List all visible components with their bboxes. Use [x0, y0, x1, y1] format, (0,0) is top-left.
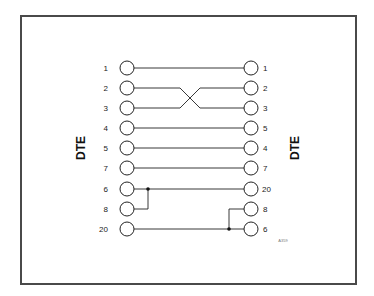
pin-circle-icon [244, 121, 258, 135]
pin-circle-icon [244, 101, 258, 115]
pin-circle-icon [120, 121, 134, 135]
left-pin-label: 2 [104, 84, 109, 93]
null-modem-wiring-diagram: DTE DTE 1 2 3 4 5 7 6 8 20 1 2 3 5 4 7 2… [0, 0, 374, 296]
left-pin-label: 1 [104, 64, 109, 73]
pin-circle-icon [244, 61, 258, 75]
junction-dot-icon [146, 187, 150, 191]
right-pin-label: 5 [263, 124, 268, 133]
right-pin-label: 3 [263, 104, 268, 113]
pin-circle-icon [120, 182, 134, 196]
left-pin-label: 3 [104, 104, 109, 113]
pin-circle-icon [120, 161, 134, 175]
pin-circle-icon [244, 81, 258, 95]
left-connector-pins [120, 61, 134, 236]
right-pin-label: 8 [263, 205, 268, 214]
right-side-label: DTE [288, 136, 302, 160]
pin-circle-icon [244, 222, 258, 236]
left-side-label: DTE [74, 136, 88, 160]
right-pin-label: 4 [263, 144, 268, 153]
pin-circle-icon [120, 141, 134, 155]
pin-circle-icon [244, 161, 258, 175]
left-pin-label: 5 [104, 144, 109, 153]
right-pin-labels: 1 2 3 5 4 7 20 8 6 [262, 64, 271, 234]
left-pin-label: 4 [104, 124, 109, 133]
right-pin-label: 2 [263, 84, 268, 93]
pin-circle-icon [120, 81, 134, 95]
right-pin-label: 20 [262, 185, 271, 194]
figure-reference-code: A359 [278, 238, 288, 243]
right-connector-pins [244, 61, 258, 236]
wire-2-3 [134, 88, 244, 108]
pin-circle-icon [120, 101, 134, 115]
left-pin-label: 8 [104, 205, 109, 214]
wire-3-2 [134, 88, 244, 108]
pin-circle-icon [120, 61, 134, 75]
pin-circle-icon [244, 141, 258, 155]
wire-8-jumper-left [134, 189, 148, 209]
pin-circle-icon [120, 222, 134, 236]
left-pin-label: 20 [99, 225, 108, 234]
left-pin-labels: 1 2 3 4 5 7 6 8 20 [99, 64, 108, 234]
pin-circle-icon [244, 202, 258, 216]
wires [134, 68, 244, 229]
pin-circle-icon [244, 182, 258, 196]
right-pin-label: 7 [263, 164, 268, 173]
left-pin-label: 7 [104, 164, 109, 173]
pin-circle-icon [120, 202, 134, 216]
junction-dot-icon [227, 227, 231, 231]
right-pin-label: 1 [263, 64, 268, 73]
wire-8-jumper-right [229, 209, 244, 229]
right-pin-label: 6 [263, 225, 268, 234]
left-pin-label: 6 [104, 185, 109, 194]
